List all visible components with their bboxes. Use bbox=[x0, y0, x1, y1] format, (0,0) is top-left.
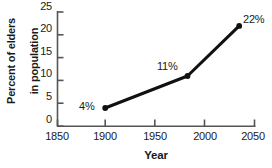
data-line-series-1 bbox=[105, 26, 239, 108]
data-point-2035 bbox=[236, 23, 242, 29]
line-chart: Percent of elders in population 0 5 10 1… bbox=[0, 0, 272, 168]
data-point-1983 bbox=[185, 73, 191, 79]
y-tick-marks bbox=[58, 12, 64, 126]
x-axis-title: Year bbox=[57, 150, 255, 162]
x-tick-marks bbox=[58, 120, 255, 127]
plot-area bbox=[0, 0, 272, 168]
data-point-1900 bbox=[102, 105, 108, 111]
